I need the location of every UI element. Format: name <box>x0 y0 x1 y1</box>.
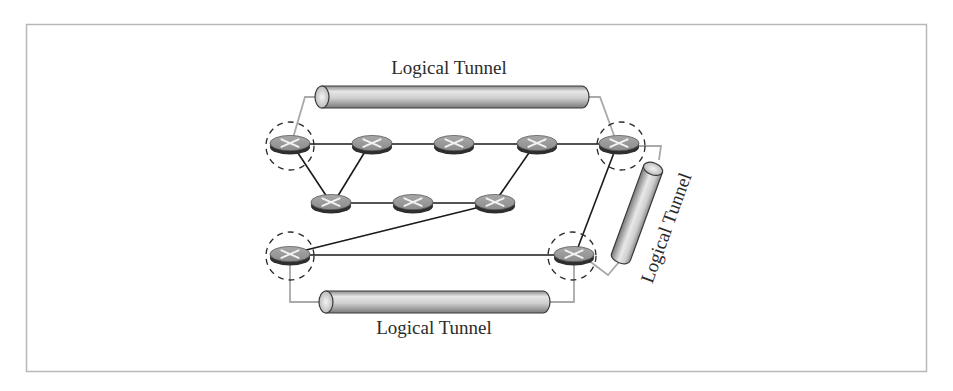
tunnel-top-label: Logical Tunnel <box>391 57 507 78</box>
router-icon <box>599 135 639 154</box>
router-icon <box>434 135 474 154</box>
tunnel-cap <box>319 291 333 313</box>
router-icon <box>311 194 351 213</box>
router-icon <box>554 246 594 265</box>
router-icon <box>270 135 310 154</box>
router-icon <box>517 135 557 154</box>
router-icon <box>475 194 515 213</box>
router-icon <box>352 135 392 154</box>
tunnel-bottom-label: Logical Tunnel <box>376 317 492 338</box>
router-icon <box>270 246 310 265</box>
network-diagram: Logical Tunnel Logical Tunnel Logical Tu… <box>0 0 953 391</box>
tunnel-cap <box>315 86 329 108</box>
router-icon <box>393 194 433 213</box>
